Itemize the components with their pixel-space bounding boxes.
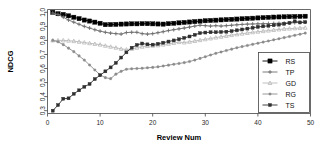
legend-label-gd: GD	[286, 80, 297, 87]
x-axis-title: Review Num	[157, 133, 202, 142]
y-tick-label: 0.7	[39, 50, 46, 59]
y-tick-label: 0.4	[39, 92, 46, 101]
y-tick-label: 0.3	[39, 106, 46, 115]
y-tick-label: 0.6	[39, 64, 46, 73]
ndcg-line-chart: 0.30.40.50.60.70.80.91.001020304050Revie…	[0, 0, 326, 161]
legend-label-rs: RS	[286, 58, 296, 65]
y-tick-label: 0.5	[39, 78, 46, 87]
y-tick-label: 1.0	[39, 7, 46, 16]
x-tick-label: 0	[46, 119, 50, 126]
x-tick-label: 10	[96, 119, 104, 126]
y-tick-label: 0.9	[39, 21, 46, 30]
x-tick-label: 50	[307, 119, 315, 126]
x-tick-label: 30	[202, 119, 210, 126]
chart-canvas: 0.30.40.50.60.70.80.91.001020304050Revie…	[0, 0, 326, 161]
y-tick-label: 0.8	[39, 36, 46, 45]
legend-label-tp: TP	[286, 69, 295, 76]
y-axis-title: NDCG	[6, 50, 15, 72]
x-tick-label: 40	[254, 119, 262, 126]
legend-label-ts: TS	[286, 102, 295, 109]
legend-box	[259, 53, 310, 113]
legend-label-rg: RG	[286, 91, 297, 98]
x-tick-label: 20	[149, 119, 157, 126]
